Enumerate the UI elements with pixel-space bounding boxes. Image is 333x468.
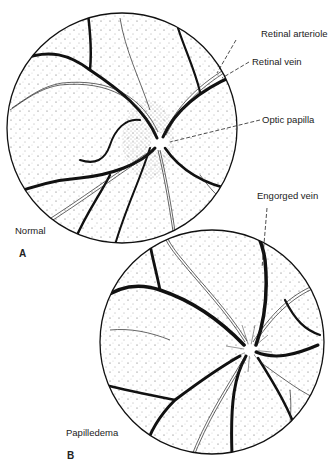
panel-letter-b: B xyxy=(67,450,74,461)
label-retinal-arteriole: Retinal arteriole xyxy=(261,28,328,39)
caption-normal: Normal xyxy=(15,225,46,236)
label-optic-papilla: Optic papilla xyxy=(262,114,314,125)
label-engorged-vein: Engorged vein xyxy=(257,190,318,201)
fundus-normal xyxy=(0,0,333,260)
fundus-papilledema xyxy=(90,220,333,468)
label-retinal-vein: Retinal vein xyxy=(252,56,302,67)
caption-papilledema: Papilledema xyxy=(66,427,118,438)
panel-letter-a: A xyxy=(19,248,26,259)
fundus-diagram xyxy=(0,0,333,468)
